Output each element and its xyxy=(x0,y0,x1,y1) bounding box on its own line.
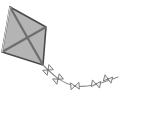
kite-illustration xyxy=(0,0,161,114)
kite-scene-svg xyxy=(0,0,161,114)
